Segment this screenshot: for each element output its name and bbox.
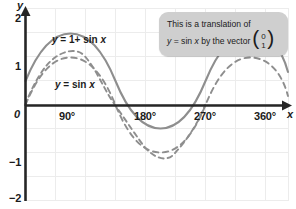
callout-text: This is a translation of y = sin x by th… xyxy=(167,18,285,53)
y-axis-label: y xyxy=(17,0,23,11)
x-axis-label: x xyxy=(287,108,293,120)
y-tick-0: 0 xyxy=(14,108,20,120)
y-tick-1: 1 xyxy=(15,60,21,72)
y-tick-minus-2: −2 xyxy=(9,192,21,204)
y-tick-2: 2 xyxy=(15,12,21,24)
column-vector: ( 0 1 ) xyxy=(252,31,274,53)
solid-curve-label-mid: = 1+ sin xyxy=(58,34,101,45)
callout-bubble: This is a translation of y = sin x by th… xyxy=(159,12,288,56)
solid-curve-label-x: x xyxy=(100,34,106,45)
dashed-curve-label: y = sin x xyxy=(55,79,95,90)
callout-line-1: This is a translation of xyxy=(167,19,251,29)
chart-figure: y x 2 1 0 −1 −2 90° 180° 270° 360° y = 1… xyxy=(0,0,296,209)
x-tick-270: 270° xyxy=(194,110,216,122)
vector-paren-right: ) xyxy=(267,27,274,49)
x-tick-90: 90° xyxy=(59,110,75,122)
callout-line-2-tail: by the vector xyxy=(199,36,251,46)
solid-curve-label: y = 1+ sin x xyxy=(52,34,106,45)
dashed-curve-label-mid: = sin xyxy=(61,79,90,90)
x-tick-180: 180° xyxy=(134,110,156,122)
dashed-curve-label-x: x xyxy=(89,79,95,90)
x-tick-360: 360° xyxy=(254,110,276,122)
y-tick-minus-1: −1 xyxy=(9,156,21,168)
callout-line-2-mid: = sin xyxy=(171,36,194,46)
